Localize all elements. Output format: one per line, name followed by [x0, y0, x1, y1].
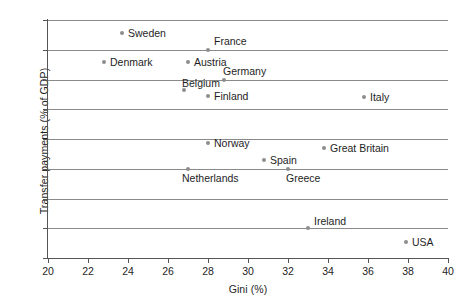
x-tick-mark: [208, 258, 209, 263]
x-tick-label: 30: [233, 265, 263, 277]
x-tick-mark: [248, 258, 249, 263]
data-point-label: Austria: [194, 56, 227, 68]
data-point-label: Germany: [223, 65, 266, 77]
x-tick-mark: [408, 258, 409, 263]
data-point: [262, 158, 266, 162]
data-point: [186, 167, 190, 171]
gridline-horizontal: [48, 80, 448, 81]
y-tick-mark: [43, 228, 48, 229]
y-tick-mark: [43, 20, 48, 21]
x-tick-label: 32: [273, 265, 303, 277]
x-tick-mark: [288, 258, 289, 263]
gridline-horizontal: [48, 109, 448, 110]
x-tick-label: 22: [73, 265, 103, 277]
data-point: [186, 60, 190, 64]
data-point-label: Sweden: [128, 27, 166, 39]
data-point-label: Spain: [270, 154, 297, 166]
data-point: [120, 31, 124, 35]
data-point-label: Italy: [370, 91, 389, 103]
data-point-label: Norway: [214, 137, 250, 149]
gridline-horizontal: [48, 50, 448, 51]
data-point: [362, 95, 366, 99]
x-tick-label: 20: [33, 265, 63, 277]
x-tick-label: 26: [153, 265, 183, 277]
x-tick-mark: [168, 258, 169, 263]
y-tick-mark: [43, 169, 48, 170]
y-tick-mark: [43, 109, 48, 110]
data-point: [206, 94, 210, 98]
x-tick-label: 34: [313, 265, 343, 277]
x-tick-label: 40: [433, 265, 461, 277]
x-tick-mark: [48, 258, 49, 263]
data-point-label: Finland: [214, 90, 248, 102]
x-tick-mark: [448, 258, 449, 263]
x-tick-label: 36: [353, 265, 383, 277]
y-tick-mark: [43, 80, 48, 81]
gridline-horizontal: [48, 20, 448, 21]
data-point: [206, 48, 210, 52]
data-point-label: Belgium: [182, 77, 220, 89]
data-point-label: Great Britain: [330, 142, 389, 154]
plot-area: 1517192123252729312022242628303234363840…: [48, 20, 448, 258]
data-point-label: Ireland: [314, 215, 346, 227]
y-tick-mark: [43, 199, 48, 200]
gridline-horizontal: [48, 199, 448, 200]
x-tick-label: 24: [113, 265, 143, 277]
x-tick-label: 38: [393, 265, 423, 277]
data-point-label: Greece: [286, 172, 320, 184]
x-tick-label: 28: [193, 265, 223, 277]
y-tick-mark: [43, 50, 48, 51]
x-axis-title: Gini (%): [48, 283, 448, 295]
data-point: [102, 60, 106, 64]
data-point: [206, 141, 210, 145]
data-point-label: USA: [412, 236, 434, 248]
data-point-label: Netherlands: [182, 172, 239, 184]
data-point: [322, 146, 326, 150]
scatter-chart: Transfer payments (% of GDP) Gini (%) 15…: [0, 0, 461, 304]
gridline-horizontal: [48, 169, 448, 170]
data-point: [222, 78, 226, 82]
x-tick-mark: [128, 258, 129, 263]
data-point-label: Denmark: [110, 56, 153, 68]
x-tick-mark: [88, 258, 89, 263]
gridline-horizontal: [48, 228, 448, 229]
x-tick-mark: [368, 258, 369, 263]
data-point: [404, 240, 408, 244]
data-point: [306, 226, 310, 230]
data-point: [286, 167, 290, 171]
x-tick-mark: [328, 258, 329, 263]
data-point-label: France: [214, 35, 247, 47]
y-tick-mark: [43, 139, 48, 140]
